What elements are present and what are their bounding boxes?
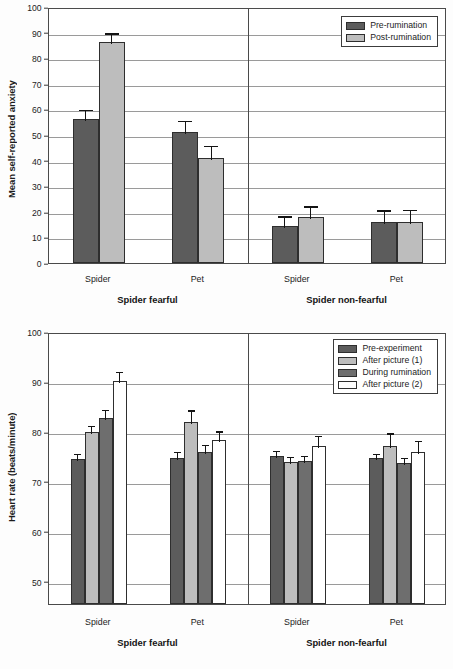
error-bar bbox=[105, 410, 106, 420]
bar bbox=[198, 452, 212, 604]
y-axis-label-anxiety: Mean self-reported anxiety bbox=[2, 14, 20, 264]
legend-swatch-icon bbox=[338, 369, 357, 377]
chart-anxiety: Mean self-reported anxiety 0102030405060… bbox=[0, 0, 453, 318]
y-tick-label: 60 bbox=[32, 106, 48, 115]
bar bbox=[397, 222, 423, 263]
bar bbox=[99, 42, 125, 263]
bar bbox=[411, 452, 425, 604]
plot-area-anxiety: 0102030405060708090100 SpiderPetSpiderPe… bbox=[22, 6, 450, 306]
x-tick-label-spider: Spider bbox=[284, 617, 309, 627]
legend-label: Pre-rumination bbox=[370, 21, 427, 30]
panel-divider bbox=[248, 334, 249, 604]
bar bbox=[298, 461, 312, 604]
error-bar-cap bbox=[202, 445, 209, 446]
error-bar-cap bbox=[315, 436, 322, 437]
error-bar bbox=[111, 33, 112, 44]
bar bbox=[184, 422, 198, 604]
error-bar-cap bbox=[401, 458, 408, 459]
panel-label-non-fearful: Spider non-fearful bbox=[306, 294, 387, 305]
bar bbox=[73, 119, 99, 263]
y-tick-label: 80 bbox=[32, 429, 48, 438]
legend-swatch-icon bbox=[338, 357, 357, 365]
x-tick-label-spider: Spider bbox=[284, 274, 309, 284]
legend-item[interactable]: After picture (1) bbox=[338, 355, 431, 366]
figure-caption-cutoff bbox=[8, 663, 448, 669]
error-bar-cap bbox=[403, 210, 417, 211]
error-bar-cap bbox=[74, 454, 81, 455]
error-bar bbox=[310, 206, 311, 218]
bar bbox=[71, 459, 85, 604]
bar bbox=[397, 463, 411, 604]
error-bar-cap bbox=[216, 431, 223, 432]
error-bar-cap bbox=[174, 452, 181, 453]
y-tick-label: 50 bbox=[32, 132, 48, 141]
panel-label-fearful: Spider fearful bbox=[117, 294, 177, 305]
error-bar-cap bbox=[377, 210, 391, 211]
legend-item[interactable]: During rumination bbox=[338, 367, 431, 378]
y-tick-label: 10 bbox=[32, 234, 48, 243]
legend-swatch-icon bbox=[338, 345, 357, 353]
error-bar bbox=[418, 441, 419, 454]
error-bar-cap bbox=[373, 454, 380, 455]
error-bar-cap bbox=[204, 146, 218, 147]
bar bbox=[284, 462, 298, 604]
x-tick-label-pet: Pet bbox=[191, 617, 204, 627]
error-bar-cap bbox=[273, 451, 280, 452]
error-bar bbox=[191, 410, 192, 423]
bar bbox=[298, 217, 324, 263]
y-tick-label: 100 bbox=[27, 329, 48, 338]
plot-area-heartrate: 5060708090100 SpiderPetSpiderPetSpider f… bbox=[22, 331, 450, 661]
legend-label: Pre-experiment bbox=[362, 344, 421, 353]
bar bbox=[270, 456, 284, 604]
y-tick-label: 70 bbox=[32, 478, 48, 487]
error-bar-cap bbox=[304, 206, 318, 207]
error-bar-cap bbox=[287, 457, 294, 458]
error-bar-cap bbox=[301, 456, 308, 457]
x-tick-label-spider: Spider bbox=[85, 274, 110, 284]
legend-item[interactable]: Pre-rumination bbox=[346, 20, 431, 31]
error-bar-cap bbox=[387, 433, 394, 434]
x-tick-label-spider: Spider bbox=[85, 617, 110, 627]
x-tick-label-pet: Pet bbox=[191, 274, 204, 284]
error-bar bbox=[410, 210, 411, 224]
error-bar bbox=[384, 210, 385, 223]
y-tick-label: 80 bbox=[32, 55, 48, 64]
error-bar-cap bbox=[188, 410, 195, 411]
bar bbox=[272, 226, 298, 263]
y-tick-label: 50 bbox=[32, 578, 48, 587]
panel-label-fearful: Spider fearful bbox=[117, 637, 177, 648]
y-tick-label: 40 bbox=[32, 157, 48, 166]
bar bbox=[172, 132, 198, 263]
bar bbox=[383, 446, 397, 604]
y-tick-label: 30 bbox=[32, 183, 48, 192]
bar bbox=[198, 158, 224, 263]
y-tick-label: 90 bbox=[32, 379, 48, 388]
bar bbox=[85, 432, 99, 604]
y-tick-label: 20 bbox=[32, 209, 48, 218]
error-bar bbox=[185, 121, 186, 134]
error-bar-cap bbox=[102, 410, 109, 411]
bar bbox=[212, 440, 226, 604]
legend-anxiety[interactable]: Pre-ruminationPost-rumination bbox=[341, 16, 438, 47]
x-tick-label-pet: Pet bbox=[390, 617, 403, 627]
figure-page: { "colors": { "dark_gray": "#5c5c5c", "l… bbox=[0, 0, 453, 669]
error-bar bbox=[219, 431, 220, 441]
legend-label: During rumination bbox=[362, 368, 431, 377]
error-bar-cap bbox=[105, 33, 119, 34]
legend-item[interactable]: Pre-experiment bbox=[338, 343, 431, 354]
legend-swatch-icon bbox=[338, 381, 357, 389]
y-tick-label: 90 bbox=[32, 29, 48, 38]
y-tick-label: 60 bbox=[32, 528, 48, 537]
legend-swatch-icon bbox=[346, 22, 365, 30]
error-bar-cap bbox=[88, 426, 95, 427]
error-bar-cap bbox=[79, 110, 93, 111]
error-bar bbox=[318, 436, 319, 447]
legend-item[interactable]: After picture (2) bbox=[338, 379, 431, 390]
error-bar bbox=[85, 110, 86, 121]
bar bbox=[369, 458, 383, 604]
x-tick-label-pet: Pet bbox=[390, 274, 403, 284]
error-bar bbox=[211, 146, 212, 160]
legend-heartrate[interactable]: Pre-experimentAfter picture (1)During ru… bbox=[333, 339, 438, 394]
legend-item[interactable]: Post-rumination bbox=[346, 32, 431, 43]
legend-label: Post-rumination bbox=[370, 33, 431, 42]
